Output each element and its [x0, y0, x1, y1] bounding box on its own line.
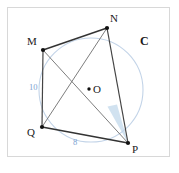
side-QM: [42, 50, 43, 127]
circle-label-C: C: [140, 35, 149, 47]
center-point-O: [87, 87, 90, 90]
side-length-label-PQ: 8: [73, 138, 77, 147]
center-label-O: O: [93, 84, 101, 95]
side-length-label-QM: 10: [29, 83, 38, 92]
vertex-point-M: [41, 48, 45, 52]
figure-canvas: [0, 0, 179, 173]
circle-C: [39, 38, 143, 142]
vertex-label-N: N: [110, 13, 118, 24]
vertex-label-M: M: [27, 36, 37, 47]
vertex-point-Q: [40, 125, 44, 129]
diagonal-NQ: [42, 28, 107, 127]
geometry-figure: M N P Q O C 10 8: [0, 0, 179, 173]
vertex-point-N: [105, 26, 109, 30]
vertex-point-P: [126, 141, 130, 145]
vertex-label-P: P: [132, 144, 138, 155]
side-MN: [43, 28, 107, 50]
vertex-label-Q: Q: [27, 127, 35, 138]
